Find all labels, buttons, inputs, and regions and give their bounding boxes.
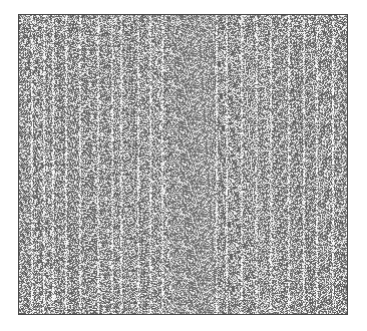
random-dot-texture xyxy=(19,15,347,314)
texture-figure-frame xyxy=(18,14,348,315)
